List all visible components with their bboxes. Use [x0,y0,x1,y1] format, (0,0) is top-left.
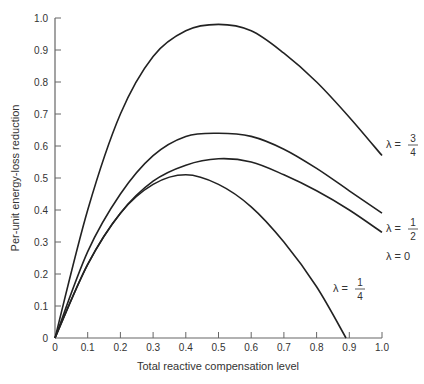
energy-loss-reduction-chart: 00.10.20.30.40.50.60.70.80.91.000.10.20.… [0,0,424,384]
x-tick-label: 1.0 [375,342,389,353]
y-tick-label: 0.4 [34,205,48,216]
x-tick-label: 0.2 [113,342,127,353]
y-tick-label: 0.6 [34,141,48,152]
curve-label-1: λ =12 [386,217,418,242]
y-axis-label: Per-unit energy-loss reduction [9,105,21,252]
curve-label-0: λ =34 [386,133,418,158]
x-axis-label: Total reactive compensation level [137,360,299,372]
x-tick-label: 0.3 [146,342,160,353]
curve-label-text: λ = [386,222,401,234]
fraction-denominator: 2 [410,231,416,242]
x-tick-label: 0.9 [342,342,356,353]
curve-label-text: λ = 0 [386,250,410,262]
y-tick-label: 0.2 [34,269,48,280]
curve-series-2 [55,159,382,338]
curve-label-text: λ = [386,138,401,150]
fraction-numerator: 1 [410,217,416,228]
curve-labels: λ =34λ =12λ = 0λ =14 [333,133,418,302]
x-tick-label: 0.6 [244,342,258,353]
fraction-numerator: 1 [357,277,363,288]
curve-label-2: λ = 0 [386,250,410,262]
axes: 00.10.20.30.40.50.60.70.80.91.000.10.20.… [34,13,389,353]
y-tick-label: 0.1 [34,301,48,312]
x-tick-label: 0 [52,342,58,353]
curve-label-text: λ = [333,282,348,294]
x-tick-label: 0.8 [310,342,324,353]
y-tick-label: 0.3 [34,237,48,248]
x-tick-label: 0.7 [277,342,291,353]
x-tick-label: 0.1 [81,342,95,353]
y-tick-label: 0.7 [34,109,48,120]
fraction-numerator: 3 [410,133,416,144]
x-tick-label: 0.5 [212,342,226,353]
x-tick-label: 0.4 [179,342,193,353]
y-tick-label: 0.5 [34,173,48,184]
y-tick-label: 0.9 [34,45,48,56]
fraction-denominator: 4 [410,147,416,158]
curve-series-3 [55,175,346,338]
fraction-denominator: 4 [357,291,363,302]
y-tick-label: 0 [42,333,48,344]
y-tick-label: 0.8 [34,77,48,88]
y-tick-label: 1.0 [34,13,48,24]
chart-svg: 00.10.20.30.40.50.60.70.80.91.000.10.20.… [0,0,424,384]
curve-label-3: λ =14 [333,277,365,302]
